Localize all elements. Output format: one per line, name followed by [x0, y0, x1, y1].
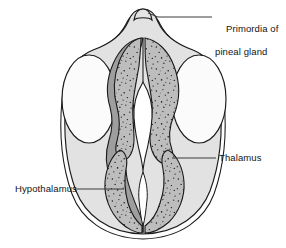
- label-pineal-line2: pineal gland: [215, 46, 278, 58]
- figure-root: Primordia of pineal gland Thalamus Hypot…: [0, 0, 286, 248]
- label-primordia-pineal-gland: Primordia of pineal gland: [215, 11, 278, 80]
- label-pineal-line1: Primordia of: [226, 23, 278, 34]
- diagram-body: [61, 9, 226, 239]
- label-thalamus: Thalamus: [219, 152, 262, 164]
- label-hypothalamus: Hypothalamus: [15, 183, 77, 195]
